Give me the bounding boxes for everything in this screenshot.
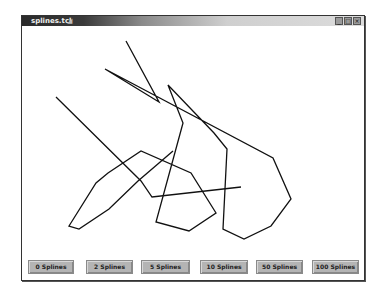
title-bar[interactable]: splines.tcl ◢ _ □ × bbox=[22, 16, 364, 26]
window-controls: _ □ × bbox=[335, 17, 361, 25]
maximize-button[interactable]: □ bbox=[344, 17, 352, 25]
two-splines-button[interactable]: 2 Splines bbox=[86, 260, 133, 274]
title-decoration-icon: ◢ bbox=[67, 17, 75, 25]
hundred-splines-button[interactable]: 100 Splines bbox=[312, 260, 359, 274]
window-title: splines.tcl bbox=[31, 16, 71, 26]
button-row: 0 Splines 2 Splines 5 Splines 10 Splines… bbox=[22, 259, 364, 277]
spline-polyline-secondary bbox=[56, 97, 241, 197]
fifty-splines-button[interactable]: 50 Splines bbox=[256, 260, 303, 274]
drawing-canvas[interactable] bbox=[22, 26, 364, 260]
splines-window: splines.tcl ◢ _ □ × 0 Splines 2 Splines … bbox=[21, 15, 365, 281]
ten-splines-button[interactable]: 10 Splines bbox=[200, 260, 248, 274]
five-splines-button[interactable]: 5 Splines bbox=[141, 260, 190, 274]
spline-polyline bbox=[69, 41, 291, 239]
minimize-button[interactable]: _ bbox=[335, 17, 343, 25]
zero-splines-button[interactable]: 0 Splines bbox=[28, 260, 74, 274]
close-button[interactable]: × bbox=[353, 17, 361, 25]
